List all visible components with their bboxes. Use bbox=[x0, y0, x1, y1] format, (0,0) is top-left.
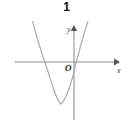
coordinate-plot: x y O bbox=[0, 0, 133, 127]
origin-label: O bbox=[65, 63, 72, 73]
x-axis-label: x bbox=[116, 66, 121, 75]
x-axis-arrow-icon bbox=[114, 59, 120, 66]
y-axis-arrow-icon bbox=[71, 25, 77, 31]
y-axis-label: y bbox=[66, 25, 71, 34]
figure-container: 1 x y O bbox=[0, 0, 133, 127]
